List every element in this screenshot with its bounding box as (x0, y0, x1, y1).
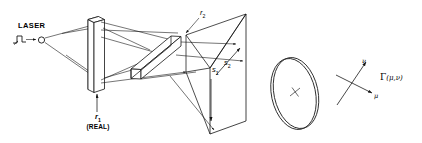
diagram-canvas (0, 0, 422, 143)
mu-axis-label: μ (374, 93, 378, 100)
plate2-edge-c (131, 46, 171, 79)
disk-inner-outline (264, 54, 322, 134)
ray-p2-to-screen-lower (170, 76, 214, 130)
s2-label: s2 (224, 59, 231, 69)
r1-real-label: r1 (REAL) (80, 113, 116, 130)
ray-lower (45, 43, 93, 77)
screen-bottom-left-edge (186, 72, 210, 134)
laser-label: LASER (18, 22, 45, 30)
r1-symbol: r1 (80, 113, 116, 123)
real-text: (REAL) (80, 124, 116, 131)
gamma-arguments: (μ,ν) (386, 74, 403, 82)
plate2-group (131, 36, 181, 79)
plate1-front-face (88, 20, 94, 93)
ray-upper (45, 25, 93, 38)
mu-axis (336, 75, 372, 93)
nu-axis (337, 62, 366, 105)
coordinate-axes-group (336, 62, 372, 105)
laser-point-source-icon (38, 37, 44, 43)
disk-center-cross-b (292, 88, 299, 97)
disk-group (264, 53, 325, 134)
plate1-group (88, 17, 105, 93)
screen-left-edge (186, 35, 210, 68)
ray-p1-top-to-p2 (101, 22, 172, 40)
ray-p1-to-p2-e (103, 28, 150, 50)
plate1-side-face (94, 20, 105, 93)
gamma-function-label: Γ(μ,ν) (380, 73, 403, 82)
laser-source-group (13, 36, 45, 45)
screen-top-edge (186, 14, 246, 35)
nu-axis-label: ν (362, 58, 366, 65)
optics-diagram: LASER r1 (REAL) r2 s1 s2 ν μ Γ(μ,ν) (0, 0, 422, 143)
step-pulse-icon (13, 36, 26, 43)
r2-label: r2 (200, 9, 205, 19)
ray-p2-to-screen-a (181, 42, 236, 44)
s1-label: s1 (212, 66, 219, 76)
screen-mid-edge (186, 68, 210, 72)
